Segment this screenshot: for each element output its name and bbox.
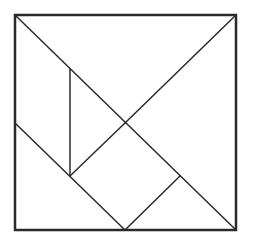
upper-right-diagonal-line: [125, 15, 236, 123]
tangram-diagram: [0, 0, 254, 246]
center-to-lower-left-line: [70, 123, 125, 176]
tangram-lines: [15, 15, 236, 230]
bottom-mid-to-right-line: [125, 176, 180, 230]
